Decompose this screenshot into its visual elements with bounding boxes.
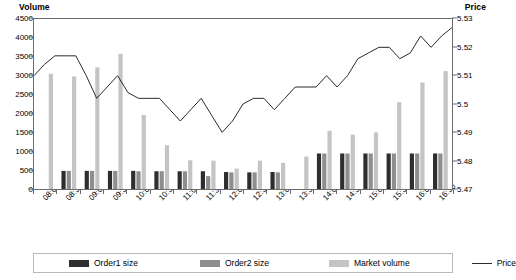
legend-item-order2: Order2 size: [200, 258, 269, 268]
x-tick-mark: [33, 190, 34, 194]
left-axis-title: Volume: [19, 2, 50, 12]
order2-swatch: [200, 260, 220, 267]
legend-label-order2: Order2 size: [225, 258, 269, 268]
legend-label-market: Market volume: [354, 258, 410, 268]
right-tick-label: 5.49: [457, 128, 473, 137]
price-line-swatch: [472, 263, 492, 264]
legend-item-market: Market volume: [329, 258, 410, 268]
plot-area: [33, 18, 453, 190]
right-tick-label: 5.52: [457, 42, 473, 51]
right-tick-label: 5.53: [457, 14, 473, 23]
right-tick-label: 5.5: [457, 99, 468, 108]
legend-item-price: Price: [472, 258, 516, 268]
right-axis-title: Price: [465, 2, 486, 12]
legend-label-order1: Order1 size: [94, 258, 138, 268]
right-tick-label: 5.47: [457, 185, 473, 194]
price-line: [34, 28, 452, 133]
order1-swatch: [69, 260, 89, 267]
right-tick-label: 5.51: [457, 71, 473, 80]
legend-label-price: Price: [497, 258, 516, 268]
market-swatch: [329, 260, 349, 267]
price-line-layer: [34, 19, 452, 189]
legend-item-order1: Order1 size: [69, 258, 138, 268]
chart-legend: Order1 size Order2 size Market volume Pr…: [33, 253, 453, 273]
right-tick-label: 5.48: [457, 156, 473, 165]
